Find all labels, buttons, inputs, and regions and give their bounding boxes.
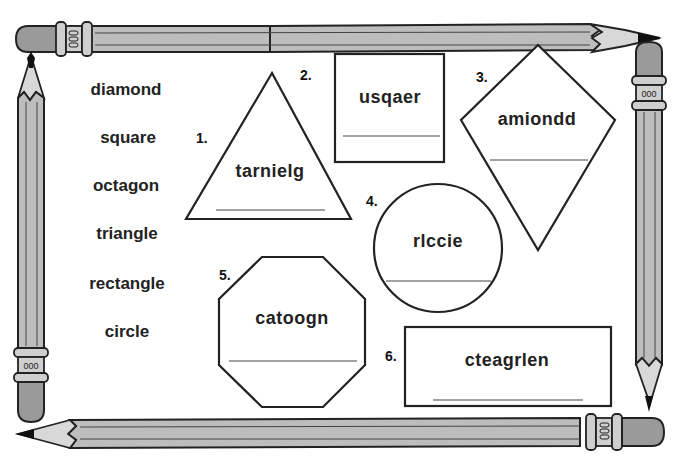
- worksheet: 000 000 diamond square octagon triangle …: [0, 0, 684, 466]
- puzzle-circle: 4. rlccie: [366, 184, 502, 312]
- pencil-right-icon: 000: [632, 42, 666, 412]
- word-bank: diamond square octagon triangle rectangl…: [89, 80, 165, 341]
- svg-text:000: 000: [23, 361, 38, 371]
- pencil-bottom-icon: [16, 414, 664, 450]
- pencil-top-icon: [16, 22, 662, 56]
- scrambled-word: tarnielg: [235, 161, 304, 181]
- svg-text:1.: 1.: [196, 130, 208, 146]
- word-bank-item: rectangle: [89, 274, 165, 293]
- scrambled-word: usqaer: [359, 87, 421, 107]
- svg-text:6.: 6.: [385, 348, 397, 364]
- word-bank-item: diamond: [91, 80, 162, 99]
- puzzle-octagon: 5. catoogn: [219, 257, 365, 407]
- scrambled-word: cteagrlen: [465, 350, 550, 370]
- pencil-left-icon: 000: [14, 52, 48, 422]
- puzzle-square: 2. usqaer: [300, 54, 444, 162]
- word-bank-item: octagon: [93, 176, 159, 195]
- word-bank-item: square: [100, 128, 156, 147]
- scrambled-word: catoogn: [255, 308, 329, 328]
- puzzle-rectangle: 6. cteagrlen: [385, 327, 611, 406]
- word-bank-item: circle: [105, 322, 149, 341]
- word-bank-item: triangle: [96, 224, 157, 243]
- svg-text:4.: 4.: [366, 193, 378, 209]
- scrambled-word: amiondd: [498, 109, 577, 129]
- svg-text:2.: 2.: [300, 67, 312, 83]
- puzzle-triangle: 1. tarnielg: [186, 73, 351, 219]
- svg-text:5.: 5.: [219, 267, 231, 283]
- svg-text:000: 000: [641, 89, 656, 99]
- svg-text:3.: 3.: [476, 69, 488, 85]
- scrambled-word: rlccie: [413, 231, 463, 251]
